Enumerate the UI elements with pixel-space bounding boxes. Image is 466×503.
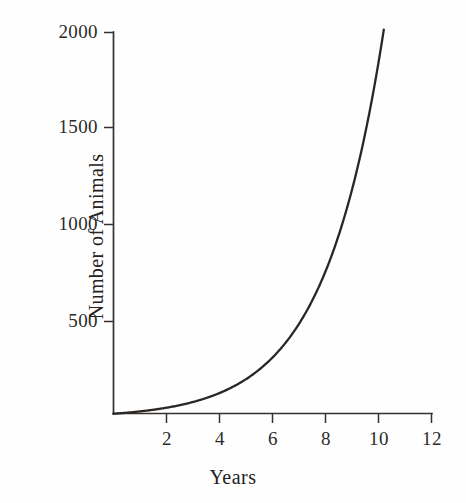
- y-tick-label-2000: 2000: [46, 21, 98, 43]
- y-tick-label-1500: 1500: [46, 116, 98, 138]
- x-tick-label-4: 4: [215, 428, 225, 450]
- x-tick-label-6: 6: [268, 428, 278, 450]
- exponential-growth-curve: [114, 30, 384, 414]
- x-tick-label-2: 2: [162, 428, 172, 450]
- x-axis-title: Years: [0, 466, 466, 489]
- x-axis-ticks: [167, 414, 432, 424]
- y-axis-title: Number of Animals: [85, 154, 108, 320]
- x-tick-label-12: 12: [422, 428, 442, 450]
- x-tick-label-10: 10: [369, 428, 389, 450]
- x-tick-label-8: 8: [321, 428, 331, 450]
- chart-figure: 2000 1500 1000 500 2 4 6 8 10 12 Years N…: [0, 0, 466, 503]
- chart-plot-area: [0, 0, 466, 503]
